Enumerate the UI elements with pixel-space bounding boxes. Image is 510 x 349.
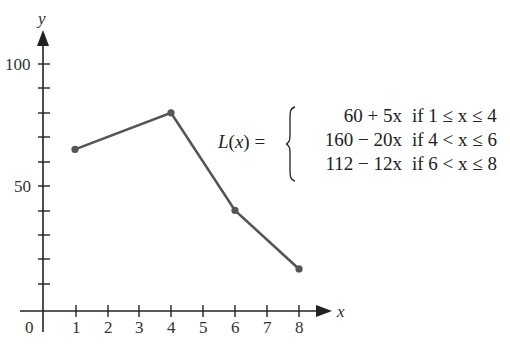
svg-text:1: 1: [72, 318, 81, 337]
origin-label: 0: [25, 318, 34, 337]
data-point: [71, 146, 78, 153]
series-line-L: [71, 109, 302, 272]
y-tick-label-100: 100: [5, 55, 31, 74]
y-axis-label: y: [36, 9, 46, 28]
data-point: [167, 109, 174, 116]
svg-text:8: 8: [295, 318, 304, 337]
svg-text:7: 7: [263, 318, 272, 337]
formula-case-3: 112 − 12x if 6 < x ≤ 8: [294, 152, 497, 176]
x-axis-label: x: [336, 302, 345, 321]
formula-case-2: 160 − 20x if 4 < x ≤ 6: [294, 128, 497, 152]
y-tick-label-50: 50: [14, 177, 31, 196]
x-tick-labels: 1 2 3 4 5 6 7 8: [72, 318, 304, 337]
data-point: [231, 207, 238, 214]
y-ticks: [38, 64, 50, 284]
svg-text:2: 2: [104, 318, 113, 337]
y-axis-arrow-icon: [37, 30, 49, 46]
formula-lhs: L(x) =: [218, 131, 265, 153]
data-point: [295, 265, 302, 272]
svg-text:5: 5: [199, 318, 208, 337]
svg-text:6: 6: [231, 318, 240, 337]
formula-case-1: 60 + 5x if 1 ≤ x ≤ 4: [294, 104, 497, 128]
formula-cases: 60 + 5x if 1 ≤ x ≤ 4 160 − 20x if 4 < x …: [294, 104, 497, 176]
svg-text:4: 4: [167, 318, 176, 337]
x-axis-arrow-icon: [316, 305, 332, 317]
svg-text:3: 3: [135, 318, 144, 337]
